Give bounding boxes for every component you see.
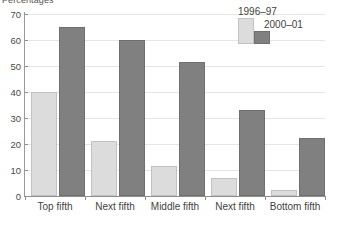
y-axis-tick [25,118,28,119]
legend-swatch-1996-97 [238,18,254,44]
x-axis-tick [265,196,266,200]
bar-group [25,14,85,196]
legend-swatch-2000-01 [254,31,270,44]
bar [91,141,117,196]
y-axis-tick-label: 30 [3,113,21,124]
y-axis-labels: 010203040506070 [0,14,21,196]
bar [179,62,205,196]
bar [31,92,57,196]
y-axis-tick-label: 10 [3,165,21,176]
chart-legend: 1996–97 2000–01 [231,6,335,46]
bar [59,27,85,196]
x-axis-labels: Top fifthNext fifthMiddle fifthNext fift… [25,199,325,219]
bar-group [85,14,145,196]
bar [271,190,297,197]
chart-title: Percentages [2,0,54,5]
y-axis-tick-label: 50 [3,61,21,72]
x-axis-tick-label: Next fifth [215,201,254,212]
x-axis-tick [145,196,146,200]
y-axis-tick-label: 40 [3,87,21,98]
bar [211,178,237,196]
bar-chart: Percentages 010203040506070 Top fifthNex… [0,0,337,226]
bar [239,110,265,196]
x-axis-tick [325,196,326,200]
y-axis-tick-label: 0 [3,191,21,202]
y-axis-tick [25,66,28,67]
y-axis-tick [25,92,28,93]
x-axis-line [24,196,326,197]
x-axis-tick [85,196,86,200]
y-axis-tick-label: 60 [3,35,21,46]
y-axis-tick [25,170,28,171]
bar-group [145,14,205,196]
x-axis-tick [25,196,26,200]
bar [119,40,145,196]
legend-label-1996-97: 1996–97 [238,6,277,17]
y-axis-tick-label: 20 [3,139,21,150]
y-axis-tick-label: 70 [3,9,21,20]
y-axis-tick [25,40,28,41]
legend-label-2000-01: 2000–01 [264,19,303,30]
bar [299,138,325,197]
x-axis-tick-label: Middle fifth [151,201,199,212]
x-axis-tick [205,196,206,200]
y-axis-tick [25,14,28,15]
y-axis-tick [25,144,28,145]
bar [151,166,177,196]
x-axis-tick-label: Top fifth [37,201,72,212]
x-axis-tick-label: Bottom fifth [270,201,321,212]
x-axis-tick-label: Next fifth [95,201,134,212]
